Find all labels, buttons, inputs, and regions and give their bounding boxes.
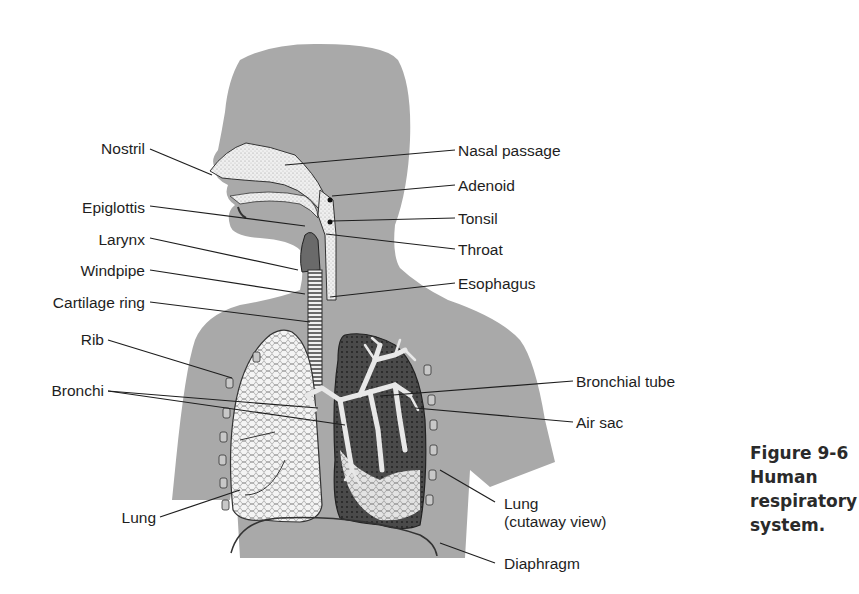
caption-line-1: Human — [750, 465, 857, 489]
caption-line-2: respiratory — [750, 489, 857, 513]
label-lung: Lung — [122, 509, 156, 526]
label-tonsil: Tonsil — [458, 210, 498, 227]
label-diaphragm: Diaphragm — [504, 555, 580, 572]
figure-caption: Figure 9-6 Human respiratory system. — [750, 441, 857, 537]
respiratory-diagram: Nostril Epiglottis Larynx Windpipe Carti… — [0, 0, 859, 594]
label-cartilage-ring: Cartilage ring — [53, 294, 145, 311]
label-bronchi: Bronchi — [51, 382, 104, 399]
label-nostril: Nostril — [101, 140, 145, 157]
label-lung-cutaway: Lung — [504, 495, 538, 512]
label-air-sac: Air sac — [576, 414, 623, 431]
label-adenoid: Adenoid — [458, 177, 515, 194]
label-throat: Throat — [458, 241, 503, 258]
label-cutaway-view: (cutaway view) — [504, 513, 607, 530]
label-esophagus: Esophagus — [458, 275, 536, 292]
label-nasal-passage: Nasal passage — [458, 142, 561, 159]
label-larynx: Larynx — [98, 231, 145, 248]
label-windpipe: Windpipe — [80, 262, 145, 279]
label-rib: Rib — [81, 331, 104, 348]
caption-line-figure-number: Figure 9-6 — [750, 441, 857, 465]
label-bronchial-tube: Bronchial tube — [576, 373, 675, 390]
label-epiglottis: Epiglottis — [82, 199, 145, 216]
caption-line-3: system. — [750, 513, 857, 537]
